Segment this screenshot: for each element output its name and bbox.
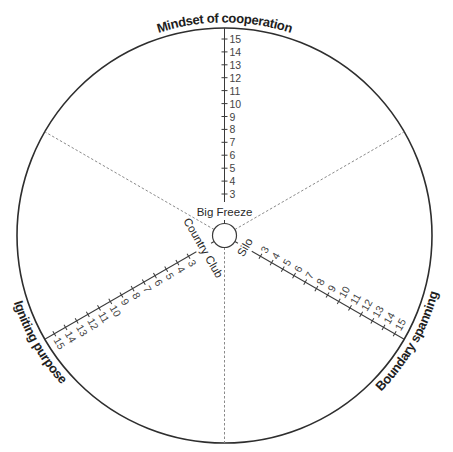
tick-label: 5 [230, 162, 236, 174]
axis-boundary-spanning: Silo 3 4 5 6 7 8 9 10 11 12 13 14 15 [230, 227, 413, 348]
tick [348, 305, 351, 310]
tick [165, 267, 168, 272]
center-hub [213, 224, 237, 248]
tick-label: 11 [230, 85, 241, 97]
tick [131, 286, 134, 291]
tick [382, 325, 385, 330]
tick [315, 286, 318, 291]
tick [187, 254, 190, 259]
tick [86, 312, 89, 317]
tick [153, 273, 156, 278]
tick-label: 12 [230, 72, 242, 84]
center-label-big-freeze: Big Freeze [197, 206, 253, 218]
tick-label: 4 [230, 175, 236, 187]
tick [259, 254, 262, 259]
tick-label: 13 [230, 59, 242, 71]
axis-mindset-of-cooperation: Big Freeze 3 4 5 6 7 8 9 10 11 12 13 14 … [197, 28, 253, 224]
axis-line [45, 252, 197, 340]
tick-label: 6 [230, 149, 236, 161]
tick [293, 273, 296, 278]
tick [360, 312, 363, 317]
dashed-divider-upper-right [235, 132, 404, 230]
tick-label: 15 [230, 33, 242, 45]
tick [371, 318, 374, 323]
tick [270, 260, 273, 265]
tick [64, 325, 67, 330]
center-label-silo: Silo [235, 236, 255, 259]
axis-igniting-purpose: Country Club 3 4 5 6 7 8 9 10 11 12 13 1… [28, 212, 231, 368]
axis-title-boundary-spanning: Boundary spanning [372, 289, 441, 394]
axis-title-lower-right: Boundary spanning [372, 289, 441, 394]
tick [75, 318, 78, 323]
tick-label: 14 [230, 46, 242, 58]
tick [176, 260, 179, 265]
tick [142, 280, 145, 285]
tick [98, 305, 101, 310]
tick [120, 292, 123, 297]
tick-label: 10 [230, 98, 242, 110]
tick [53, 331, 56, 336]
tick [393, 331, 396, 336]
dashed-divider-upper-left [45, 132, 214, 230]
tick [304, 280, 307, 285]
tick-label: 8 [230, 123, 236, 135]
tick [326, 292, 329, 297]
tick-label: 3 [230, 188, 236, 200]
tripolar-diagram: Big Freeze 3 4 5 6 7 8 9 10 11 12 13 14 … [0, 0, 453, 452]
tick [281, 267, 284, 272]
tick [337, 299, 340, 304]
tick [109, 299, 112, 304]
tick-label: 7 [230, 136, 236, 148]
tick-label: 9 [230, 111, 236, 123]
